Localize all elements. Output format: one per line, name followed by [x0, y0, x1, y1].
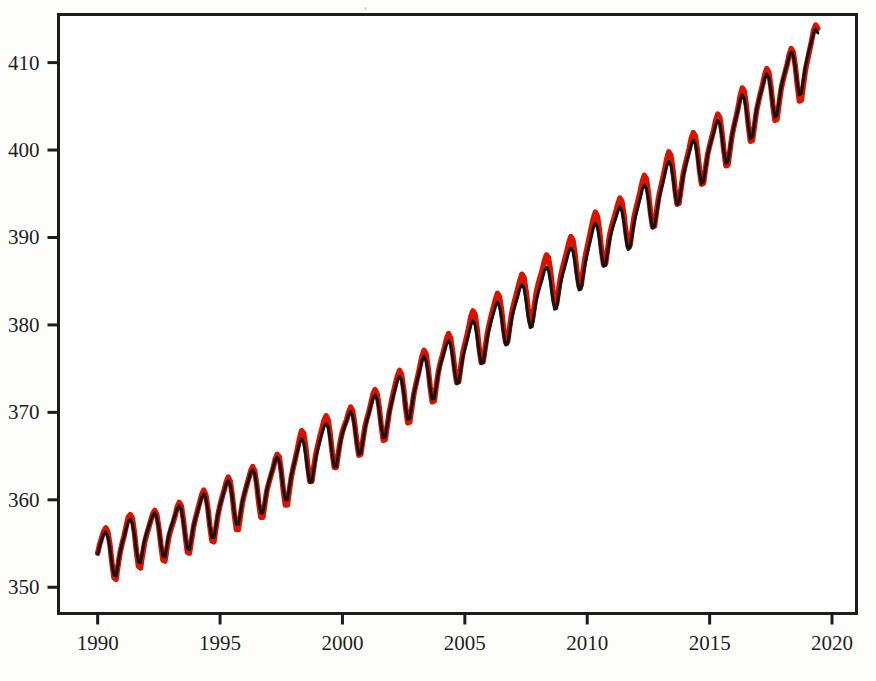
y-tick-label: 390 [8, 225, 40, 249]
y-tick-label: 360 [8, 488, 40, 512]
y-tick-label: 370 [8, 400, 40, 424]
x-axis-tick-labels: 1990199520002005201020152020 [77, 631, 853, 655]
y-tick-label: 410 [8, 51, 40, 75]
figure-caption-sliver [0, 676, 876, 681]
x-tick-label: 2005 [444, 631, 486, 655]
y-tick-label: 380 [8, 313, 40, 337]
x-tick-label: 2010 [566, 631, 608, 655]
y-tick-label: 400 [8, 138, 40, 162]
y-tick-label: 350 [8, 575, 40, 599]
x-tick-label: 1990 [77, 631, 119, 655]
y-axis-tick-labels: 350360370380390400410 [8, 51, 40, 600]
x-tick-label: 2020 [811, 631, 853, 655]
x-axis-ticks [98, 614, 832, 625]
co2-line-chart: 350360370380390400410 199019952000200520… [0, 0, 876, 681]
x-tick-label: 2015 [689, 631, 731, 655]
figure-canvas: 350360370380390400410 199019952000200520… [0, 0, 876, 681]
x-tick-label: 1995 [199, 631, 241, 655]
x-tick-label: 2000 [321, 631, 363, 655]
y-axis-ticks [48, 63, 59, 588]
